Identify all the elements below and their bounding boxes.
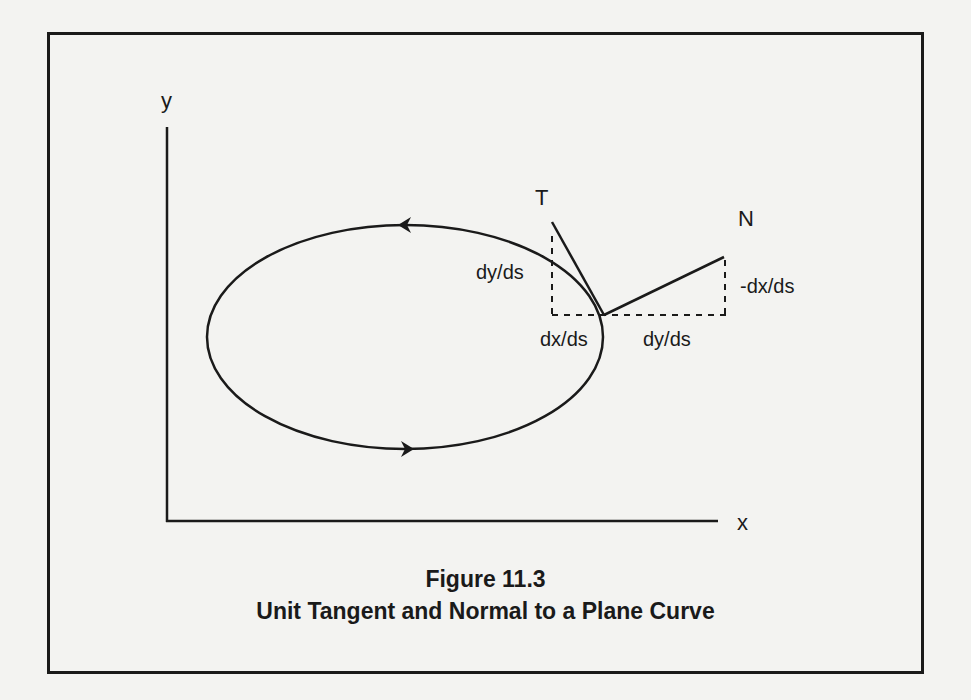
normal-vector: [604, 257, 724, 315]
tangent-label: T: [535, 187, 548, 209]
normal-vertical-label: -dx/ds: [740, 276, 794, 296]
figure-title: Unit Tangent and Normal to a Plane Curve: [0, 600, 971, 623]
diagram-canvas: [0, 0, 971, 700]
figure-number: Figure 11.3: [0, 568, 971, 591]
normal-horizontal-label: dy/ds: [643, 329, 691, 349]
x-axis-label: x: [737, 512, 748, 534]
y-axis-label: y: [161, 90, 172, 112]
tangent-horizontal-label: dx/ds: [540, 329, 588, 349]
tangent-vertical-label: dy/ds: [476, 262, 524, 282]
normal-label: N: [738, 208, 754, 230]
